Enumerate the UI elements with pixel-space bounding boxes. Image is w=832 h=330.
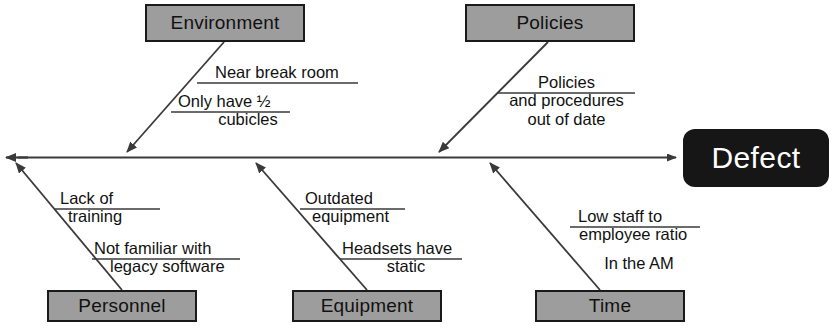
cause-environment-1: Near break room bbox=[215, 63, 339, 81]
cause-policies-1-line-2: and procedures bbox=[498, 91, 635, 109]
cause-environment-2: Only have ½ cubicles bbox=[178, 92, 308, 129]
cause-personnel-2-line-1: Not familiar with bbox=[94, 239, 242, 257]
cause-time-2: In the AM bbox=[578, 254, 700, 272]
cause-equipment-1: Outdated equipment bbox=[305, 189, 410, 226]
cause-policies-1-line-3: out of date bbox=[498, 110, 635, 128]
category-box-environment[interactable]: Environment bbox=[145, 4, 305, 42]
effect-label: Defect bbox=[711, 141, 800, 175]
cause-time-1-line-1: Low staff to bbox=[578, 207, 700, 225]
category-label-policies: Policies bbox=[516, 12, 583, 34]
cause-environment-2-line-1: Only have ½ bbox=[178, 92, 308, 110]
cause-personnel-1-line-1: Lack of bbox=[60, 189, 165, 207]
cause-policies-1-line-1: Policies bbox=[498, 73, 635, 91]
cause-time-1-line-2: employee ratio bbox=[578, 225, 700, 243]
cause-equipment-1-line-2: equipment bbox=[305, 207, 410, 225]
cause-personnel-2-line-2: legacy software bbox=[94, 257, 242, 275]
fishbone-diagram: Environment Policies Personnel Equipment… bbox=[0, 0, 832, 330]
cause-equipment-1-line-1: Outdated bbox=[305, 189, 410, 207]
category-label-equipment: Equipment bbox=[321, 295, 414, 317]
cause-equipment-2-line-2: static bbox=[342, 257, 464, 275]
cause-environment-2-line-2: cubicles bbox=[178, 110, 308, 128]
cause-equipment-2-line-1: Headsets have bbox=[342, 239, 464, 257]
category-box-equipment[interactable]: Equipment bbox=[292, 290, 442, 322]
cause-policies-1: Policies and procedures out of date bbox=[498, 73, 635, 128]
cause-time-1: Low staff to employee ratio bbox=[578, 207, 700, 244]
category-box-personnel[interactable]: Personnel bbox=[47, 290, 197, 322]
category-label-environment: Environment bbox=[171, 12, 280, 34]
category-box-time[interactable]: Time bbox=[535, 290, 685, 322]
cause-equipment-2: Headsets have static bbox=[342, 239, 464, 276]
cause-personnel-1: Lack of training bbox=[60, 189, 165, 226]
category-label-personnel: Personnel bbox=[78, 295, 165, 317]
cause-personnel-1-line-2: training bbox=[60, 207, 165, 225]
cause-time-2-line-1: In the AM bbox=[578, 254, 700, 272]
category-box-policies[interactable]: Policies bbox=[465, 4, 635, 42]
effect-box-defect[interactable]: Defect bbox=[683, 129, 829, 187]
cause-personnel-2: Not familiar with legacy software bbox=[94, 239, 242, 276]
cause-environment-1-line-1: Near break room bbox=[215, 63, 339, 81]
category-label-time: Time bbox=[589, 295, 631, 317]
